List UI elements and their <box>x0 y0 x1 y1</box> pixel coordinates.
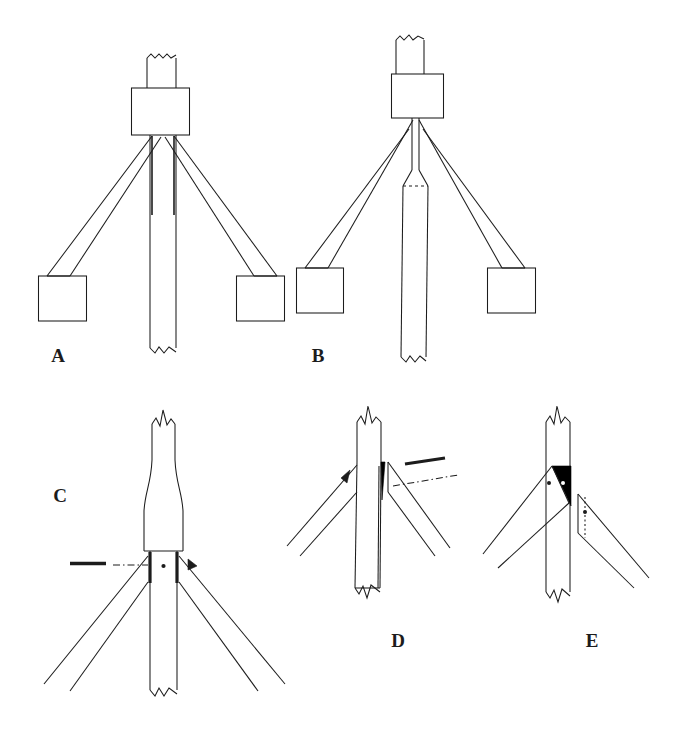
figure-plate: A B C D E <box>0 0 678 735</box>
canvas-background <box>0 0 678 735</box>
panel-c-pivot-dot <box>161 564 165 568</box>
panel-label-b: B <box>312 345 325 366</box>
figure-canvas: A B C D E <box>0 0 678 735</box>
panel-label-d: D <box>391 630 405 651</box>
panel-label-c: C <box>53 485 67 506</box>
panel-e-bracket-dot-left <box>547 481 551 485</box>
panel-e-bracket-dot-right <box>561 481 565 485</box>
panel-label-a: A <box>51 345 65 366</box>
panel-label-e: E <box>586 630 599 651</box>
